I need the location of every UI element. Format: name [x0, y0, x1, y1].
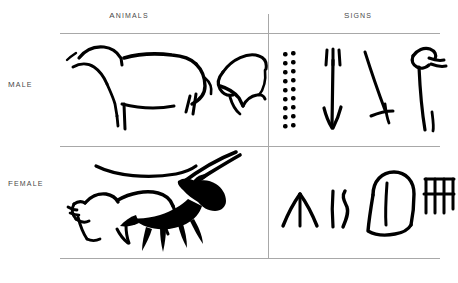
male-signs-art	[269, 34, 458, 146]
cave-art-comparison-figure: Animals Signs Male Female	[0, 0, 458, 283]
bison-outline-motif	[67, 47, 211, 129]
column-header-animals: Animals	[0, 8, 258, 20]
chevron-sign-motif	[283, 194, 317, 226]
rule-bottom	[60, 258, 440, 259]
grid-sign-motif	[424, 179, 454, 213]
column-header-signs: Signs	[258, 8, 458, 20]
female-animals-cell	[60, 147, 268, 258]
male-animals-art	[60, 34, 268, 146]
paired-dots-column-motif	[283, 51, 296, 129]
paired-strokes-sign-motif	[332, 191, 347, 227]
female-animals-art	[60, 147, 268, 258]
male-signs-cell	[269, 34, 458, 146]
row-header-male: Male	[8, 77, 33, 89]
female-signs-art	[269, 147, 458, 258]
male-animals-cell	[60, 34, 268, 146]
hooked-staff-sign-motif	[412, 48, 446, 131]
curved-arc-motif	[96, 166, 196, 176]
bison-head-outline-motif	[218, 55, 266, 114]
tectiform-sign-motif	[368, 172, 414, 235]
barbed-arrow-sign-motif	[324, 49, 341, 128]
oblique-barbed-line-motif	[365, 52, 393, 123]
ibex-filled-motif	[117, 152, 240, 252]
row-header-female: Female	[8, 176, 44, 188]
female-signs-cell	[269, 147, 458, 258]
